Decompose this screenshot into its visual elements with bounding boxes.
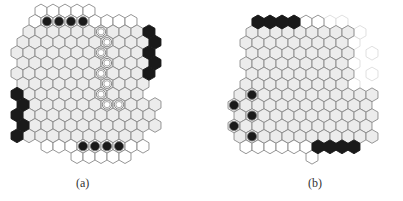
white-stone-disc-inner [98, 29, 104, 35]
faint-hex-cell [366, 46, 378, 60]
black-stone-disc [54, 17, 63, 26]
black-stone-hex [288, 15, 300, 29]
caption-b: (b) [308, 176, 322, 191]
hex-cell [366, 130, 378, 144]
white-stone-disc-inner [104, 102, 110, 108]
hex-cell [95, 150, 107, 164]
hex-cell [149, 119, 161, 133]
hex-cell [71, 150, 83, 164]
caption-a: (a) [76, 176, 89, 191]
black-stone-disc [42, 17, 51, 26]
hex-cell [137, 139, 149, 153]
black-stone-disc [229, 121, 238, 130]
white-stone-disc-inner [104, 39, 110, 45]
hex-board-a [0, 0, 200, 175]
hex-cell [83, 150, 95, 164]
hex-cell [264, 140, 276, 154]
black-stone-hex [264, 15, 276, 29]
faint-hex-cell [366, 67, 378, 81]
black-stone-disc [90, 142, 99, 151]
white-stone-disc-inner [104, 81, 110, 87]
black-stone-hex [11, 129, 23, 143]
black-stone-disc [247, 111, 256, 120]
black-stone-disc [114, 142, 123, 151]
black-stone-hex [336, 140, 348, 154]
black-stone-hex [348, 140, 360, 154]
black-stone-disc [78, 142, 87, 151]
hex-cell [252, 140, 264, 154]
hex-cell [119, 150, 131, 164]
black-stone-disc [78, 17, 87, 26]
black-stone-hex [276, 15, 288, 29]
black-stone-disc [229, 101, 238, 110]
figure-b: (b) [200, 0, 403, 201]
black-stone-hex [252, 15, 264, 29]
white-stone-disc-inner [116, 102, 122, 108]
white-stone-disc-inner [98, 50, 104, 56]
white-stone-disc-inner [98, 70, 104, 76]
black-stone-disc [247, 132, 256, 141]
black-stone-hex [324, 140, 336, 154]
hex-cell [240, 140, 252, 154]
black-stone-disc [66, 17, 75, 26]
hex-cell [53, 139, 65, 153]
hex-cell [276, 140, 288, 154]
hex-cell [107, 150, 119, 164]
figure-a: (a) [0, 0, 200, 201]
white-stone-disc-inner [104, 60, 110, 66]
white-stone-disc-inner [98, 91, 104, 97]
hex-board-b [200, 0, 403, 175]
black-stone-disc [247, 90, 256, 99]
black-stone-hex [143, 67, 155, 81]
hex-cell [288, 140, 300, 154]
hex-cell [41, 139, 53, 153]
black-stone-hex [312, 140, 324, 154]
black-stone-disc [102, 142, 111, 151]
